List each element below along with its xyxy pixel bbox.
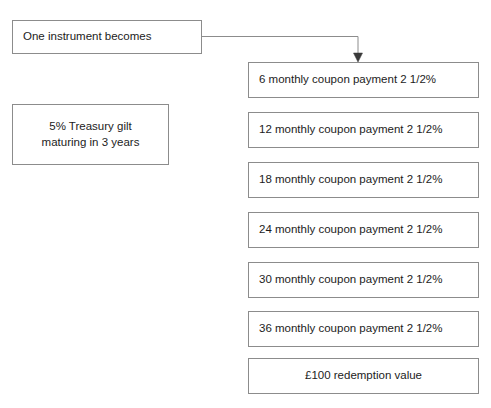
cashflow-label-1: 6 monthly coupon payment 2 1/2%: [259, 72, 436, 88]
cashflow-label-6: 36 monthly coupon payment 2 1/2%: [259, 321, 442, 337]
cashflow-box-4: 24 monthly coupon payment 2 1/2%: [248, 212, 479, 248]
cropped-text-artifact: [148, 0, 208, 5]
redemption-value-label: £100 redemption value: [305, 368, 422, 384]
source-instrument-box: One instrument becomes: [12, 20, 202, 54]
treasury-gilt-line-2: maturing in 3 years: [42, 135, 140, 151]
diagram-canvas: One instrument becomes 5% Treasury gilt …: [0, 0, 491, 408]
cashflow-box-3: 18 monthly coupon payment 2 1/2%: [248, 162, 479, 198]
cashflow-box-6: 36 monthly coupon payment 2 1/2%: [248, 311, 479, 347]
cashflow-label-5: 30 monthly coupon payment 2 1/2%: [259, 272, 442, 288]
redemption-value-box: £100 redemption value: [248, 358, 479, 394]
cashflow-label-4: 24 monthly coupon payment 2 1/2%: [259, 222, 442, 238]
cashflow-label-3: 18 monthly coupon payment 2 1/2%: [259, 172, 442, 188]
cashflow-box-2: 12 monthly coupon payment 2 1/2%: [248, 112, 479, 148]
treasury-gilt-box: 5% Treasury gilt maturing in 3 years: [12, 104, 169, 165]
cashflow-box-1: 6 monthly coupon payment 2 1/2%: [248, 62, 479, 98]
source-instrument-label: One instrument becomes: [23, 29, 151, 45]
cashflow-label-2: 12 monthly coupon payment 2 1/2%: [259, 122, 442, 138]
cashflow-box-5: 30 monthly coupon payment 2 1/2%: [248, 262, 479, 298]
treasury-gilt-line-1: 5% Treasury gilt: [49, 119, 131, 135]
